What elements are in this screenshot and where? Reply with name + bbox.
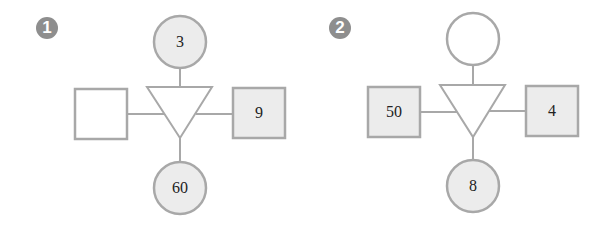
triangle-operator (147, 87, 212, 138)
top-circle (447, 13, 499, 65)
left-square-value: 50 (386, 103, 402, 121)
diagram-2: 2 50 4 8 (300, 0, 600, 229)
left-square (75, 89, 127, 139)
right-square-value: 4 (548, 102, 556, 120)
bottom-circle-value: 60 (172, 179, 188, 197)
right-square-value: 9 (255, 104, 263, 122)
bottom-circle-value: 8 (469, 177, 477, 195)
diagram-1: 1 3 9 60 (0, 0, 300, 229)
top-circle-value: 3 (176, 33, 184, 51)
